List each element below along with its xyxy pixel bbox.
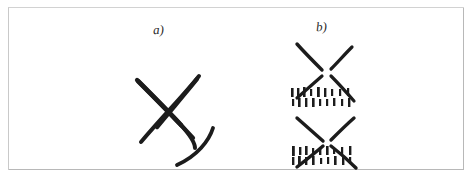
panel-b-drawing <box>283 36 375 181</box>
panel-b-tick-row-upper-second <box>292 98 350 107</box>
upper-x-arm-bottom-right <box>331 76 354 101</box>
upper-x-arm-top-left <box>297 44 322 70</box>
figure-border-frame: a) b) <box>8 7 464 170</box>
figure-canvas: a) b) <box>0 0 473 184</box>
lower-x-arm-top-right <box>331 118 354 140</box>
panel-a-drawing <box>127 66 227 174</box>
panel-a-label: a) <box>153 22 165 39</box>
panel-b-label: b) <box>316 19 328 36</box>
lower-x-arm-top-left <box>297 118 323 141</box>
upper-x-arm-top-right <box>331 47 352 69</box>
